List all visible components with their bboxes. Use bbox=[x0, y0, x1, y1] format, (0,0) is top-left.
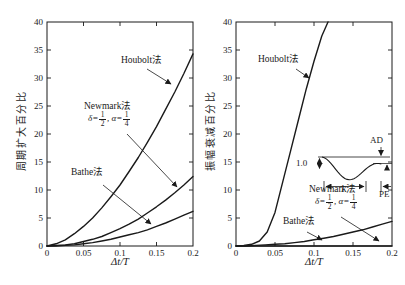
inset-period-label: T bbox=[340, 185, 345, 194]
y-tick-label: 30 bbox=[16, 74, 43, 83]
y-tick-label: 15 bbox=[205, 158, 232, 167]
fraction-one-quarter: 14 bbox=[123, 111, 130, 128]
houbolt-callout-arrow bbox=[147, 69, 171, 84]
x-tick-label: 0.2 bbox=[181, 249, 205, 258]
x-tick-label: 0.15 bbox=[145, 249, 169, 258]
fraction-one-half: 12 bbox=[99, 111, 106, 128]
fraction-denominator: 4 bbox=[125, 120, 129, 128]
alpha-param: , α= bbox=[107, 114, 122, 124]
y-tick-label: 30 bbox=[205, 74, 232, 83]
y-tick-label: 0 bbox=[205, 242, 232, 251]
y-tick-label: 25 bbox=[16, 102, 43, 111]
period-elongation-plot-frame bbox=[47, 22, 193, 246]
fraction-one-quarter: 14 bbox=[350, 194, 357, 211]
y-tick-label: 0 bbox=[16, 242, 43, 251]
y-tick-label: 40 bbox=[205, 18, 232, 27]
newmark-callout-arrow bbox=[341, 217, 379, 241]
bathe-callout-arrow bbox=[103, 185, 151, 224]
houbolt-curve bbox=[47, 54, 193, 246]
y-tick-label: 5 bbox=[16, 214, 43, 223]
left-bathe-label: Bathe法 bbox=[71, 167, 103, 177]
left-houbolt-label: Houbolt法 bbox=[121, 55, 162, 65]
alpha-param: , α= bbox=[334, 197, 349, 207]
fraction-denominator: 4 bbox=[352, 203, 356, 211]
fraction-denominator: 2 bbox=[101, 120, 105, 128]
houbolt-callout-arrow bbox=[296, 69, 309, 78]
bathe-callout-arrow bbox=[307, 232, 322, 240]
x-tick-label: 0.1 bbox=[108, 249, 132, 258]
inset-amplitude-label: 1.0 bbox=[296, 159, 307, 168]
fraction-one-half: 12 bbox=[326, 194, 333, 211]
right-bathe-label: Bathe法 bbox=[283, 216, 315, 226]
y-tick-label: 10 bbox=[205, 186, 232, 195]
decaying-wave-curve bbox=[322, 157, 381, 180]
y-tick-label: 5 bbox=[205, 214, 232, 223]
y-tick-label: 20 bbox=[16, 130, 43, 139]
y-tick-label: 35 bbox=[205, 46, 232, 55]
left-newmark-params: δ= 12 , α= 14 bbox=[88, 111, 131, 128]
right-newmark-label: Newmark法 bbox=[309, 184, 356, 194]
inset-ad-label: AD bbox=[370, 136, 383, 145]
y-tick-label: 35 bbox=[16, 46, 43, 55]
inset-pe-label: PE bbox=[379, 190, 390, 199]
right-newmark-params: δ= 12 , α= 14 bbox=[315, 194, 358, 211]
x-tick-label: 0.1 bbox=[302, 249, 326, 258]
y-tick-label: 15 bbox=[16, 158, 43, 167]
right-houbolt-label: Houbolt法 bbox=[258, 54, 299, 64]
x-tick-label: 0.05 bbox=[72, 249, 96, 258]
fraction-denominator: 2 bbox=[328, 203, 332, 211]
y-tick-label: 25 bbox=[205, 102, 232, 111]
newmark-curve bbox=[47, 177, 193, 246]
x-tick-label: 0.2 bbox=[380, 249, 404, 258]
figure: 周期扩大百分比 振幅衰减百分比 Δt/T Δt/T Houbolt法 Newma… bbox=[0, 0, 405, 285]
newmark-callout-arrow bbox=[127, 134, 177, 187]
y-tick-label: 20 bbox=[205, 130, 232, 139]
y-tick-label: 40 bbox=[16, 18, 43, 27]
x-tick-label: 0.05 bbox=[263, 249, 287, 258]
delta-param: δ= bbox=[88, 114, 98, 124]
delta-param: δ= bbox=[315, 197, 325, 207]
x-tick-label: 0.15 bbox=[341, 249, 365, 258]
y-tick-label: 10 bbox=[16, 186, 43, 195]
